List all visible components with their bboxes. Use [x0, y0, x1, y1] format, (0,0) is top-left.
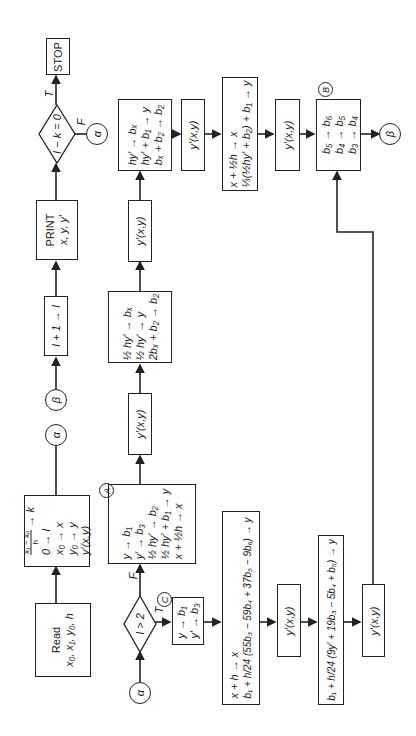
- print-box: PRINT x, y, y′: [36, 200, 78, 260]
- predictor-line: b₁ + h/24 (55b₃ − 59b₄ + 37b₅ − 9b₆) → y: [241, 518, 254, 699]
- eval-c1-text: y′(x,y): [283, 606, 296, 635]
- read-title: Read: [50, 613, 63, 667]
- box-x-half: x + ½h → x ⅓(½hy′ + b₂) + b₁ → y: [222, 77, 258, 191]
- box-a: y → b₁ y′ → b₃ ½ hy′ → b₂ ½ hy′ + b₁ → y…: [108, 484, 196, 564]
- box-a-line: y → b₁: [120, 489, 133, 560]
- init-box: x₁ − x₀h → k 0 → I x₀ → x y₀ → y y′(x,y): [24, 495, 90, 567]
- box-c-line: y → b₁: [175, 603, 188, 638]
- init-line-2: x₀ → x: [53, 507, 66, 555]
- init-line-1: 0 → I: [40, 507, 53, 555]
- stop-box: STOP: [46, 38, 70, 75]
- box-c: y → b₁ y′ → b₃: [172, 597, 204, 645]
- predictor-line: x + h → x: [228, 518, 241, 699]
- connector-alpha-in: α: [129, 682, 151, 704]
- box-half-line: ½ hy′ → y: [134, 294, 147, 361]
- print-title: PRINT: [44, 214, 57, 247]
- box-x-half-line: x + ½h → x: [227, 81, 240, 188]
- eval-b0-pre-box: y′(x,y): [181, 99, 205, 171]
- box-hy: hy′ → bₓ hy′ + b₁ → y bₓ + b₂ → b₂: [118, 99, 172, 171]
- connector-alpha-from-end: α: [86, 123, 108, 145]
- eval-c2-box: y′(x,y): [362, 584, 385, 657]
- box-b-line: b₅ → b₆: [319, 116, 332, 154]
- eval-c1-box: y′(x,y): [277, 584, 301, 657]
- box-a-line: y′ → b₃: [133, 489, 146, 560]
- box-hy-line: hy′ → bₓ: [126, 105, 139, 166]
- print-values: x, y, y′: [57, 214, 70, 247]
- eval-b0-box: y′(x,y): [275, 99, 300, 171]
- corrector-text: b₁ + h/24 (9y′ + 19b₃ − 5b₄ + b₅) → y: [325, 539, 338, 701]
- decision-i2-text: I > 2: [134, 613, 146, 635]
- flowchart-canvas: Read x₀, x₁, y₀, h x₁ − x₀h → k 0 → I x₀…: [0, 0, 416, 736]
- decision-end-text: I − k = 0: [51, 114, 63, 154]
- box-b-line: b₃ → b₄: [345, 116, 358, 154]
- box-b: b₅ → b₆ b₄ → b₅ b₃ → b₄: [316, 99, 361, 171]
- decision-i2-true-label: T: [153, 607, 165, 614]
- init-line-4: y′(x,y): [79, 507, 92, 555]
- eval-a1-box: y′(x,y): [128, 393, 152, 455]
- stop-text: STOP: [52, 42, 65, 72]
- box-x-half-line: ⅓(½hy′ + b₂) + b₁ → y: [240, 81, 253, 188]
- eval-b0-pre-text: y′(x,y): [187, 121, 200, 150]
- tag-b: B: [318, 82, 333, 97]
- box-a-line: ½ hy′ + b₁ → y: [159, 489, 172, 560]
- predictor-box: x + h → x b₁ + h/24 (55b₃ − 59b₄ + 37b₅ …: [222, 511, 260, 705]
- decision-end-true-label: T: [43, 91, 55, 98]
- decision-end-false-label: F: [75, 119, 87, 126]
- increment-box: I + 1 → I: [44, 296, 68, 356]
- read-params: x₀, x₁, y₀, h: [63, 613, 76, 667]
- connector-beta-out: β: [379, 123, 401, 145]
- init-k: x₁ − x₀h → k: [23, 507, 40, 555]
- eval-a2-box: y′(x,y): [128, 200, 152, 262]
- box-half: ½ hy′ → bₓ ½ hy′ → y 2bₓ + b₂ → b₂: [108, 291, 172, 363]
- box-c-line: y′ → b₃: [188, 603, 201, 638]
- eval-c2-text: y′(x,y): [367, 606, 380, 635]
- tag-a: A: [99, 483, 114, 498]
- corrector-box: b₁ + h/24 (9y′ + 19b₃ − 5b₄ + b₅) → y: [318, 535, 344, 705]
- box-a-line: ½ hy′ → b₂: [146, 489, 159, 560]
- connector-alpha-out: α: [45, 424, 67, 446]
- box-half-line: 2bₓ + b₂ → b₂: [147, 294, 160, 361]
- connector-beta-in: β: [45, 389, 67, 411]
- eval-a1-text: y′(x,y): [134, 410, 147, 439]
- eval-b0-text: y′(x,y): [281, 121, 294, 150]
- box-hy-line: hy′ + b₁ → y: [139, 105, 152, 166]
- eval-a2-text: y′(x,y): [134, 217, 147, 246]
- init-line-3: y₀ → y: [66, 507, 79, 555]
- box-half-line: ½ hy′ → bₓ: [121, 294, 134, 361]
- box-a-line: x + ½h → x: [172, 489, 185, 560]
- increment-text: I + 1 → I: [50, 305, 63, 347]
- decision-i2-false-label: F: [127, 573, 139, 580]
- box-hy-line: bₓ + b₂ → b₂: [152, 105, 165, 166]
- read-box: Read x₀, x₁, y₀, h: [35, 603, 91, 677]
- tag-c: C: [157, 592, 172, 607]
- box-b-line: b₄ → b₅: [332, 116, 345, 154]
